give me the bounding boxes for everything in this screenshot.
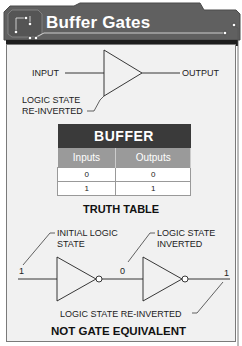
inverted-label-line1: LOGIC STATE — [157, 228, 215, 238]
not-gate-caption: NOT GATE EQUIVALENT — [51, 325, 186, 337]
initial-state-label-line2: STATE — [57, 239, 85, 249]
value-middle: 0 — [120, 266, 125, 276]
reinverted-label: LOGIC STATE RE-INVERTED — [60, 309, 182, 319]
not-gate-chain-diagram — [0, 0, 242, 346]
initial-state-label-line1: INITIAL LOGIC — [57, 228, 118, 238]
value-initial: 1 — [19, 266, 24, 276]
inverted-label-line2: INVERTED — [157, 239, 202, 249]
value-final: 1 — [224, 268, 229, 278]
